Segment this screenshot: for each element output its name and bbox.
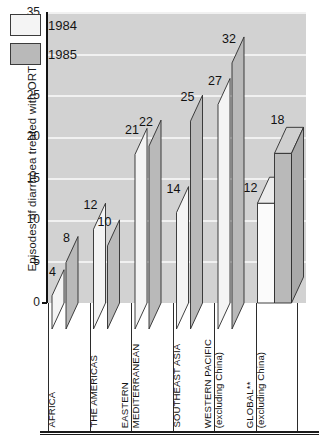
category-label-5: GLOBAL**(excluding China) xyxy=(244,352,265,428)
x-axis-line xyxy=(40,431,319,433)
category-label-line: EASTERN xyxy=(120,344,131,428)
y-tick-label-15: 15 xyxy=(12,173,40,183)
y-tick-label-0: 0 xyxy=(12,297,40,307)
category-label-line: MEDITERRANEAN xyxy=(130,344,141,428)
x-axis-line-shadow xyxy=(40,434,319,435)
y-tick-label-20: 20 xyxy=(12,131,40,141)
category-label-3: SOUTHEAST ASIA xyxy=(172,344,183,428)
category-label-line: AFRICA xyxy=(47,392,58,428)
legend-item-1985[interactable]: 1985 xyxy=(10,43,77,65)
y-tick-label-10: 10 xyxy=(12,214,40,224)
category-label-line: (excluding China) xyxy=(255,352,266,428)
legend-item-1984[interactable]: 1984 xyxy=(10,14,77,36)
y-tick-0 xyxy=(42,302,47,304)
category-label-4: WESTERN PACIFIC(excluding China) xyxy=(203,339,224,428)
y-tick-label-25: 25 xyxy=(12,90,40,100)
category-label-line: WESTERN PACIFIC xyxy=(203,339,214,428)
value-label-2-1985: 22 xyxy=(139,115,153,129)
category-separator-end xyxy=(297,303,298,432)
value-label-3-1985: 25 xyxy=(181,90,195,104)
category-label-2: EASTERNMEDITERRANEAN xyxy=(120,344,141,428)
value-label-4-1985: 32 xyxy=(222,32,236,46)
legend-swatch-1984 xyxy=(10,14,41,36)
legend: 1984 1985 xyxy=(10,14,77,72)
category-label-line: GLOBAL** xyxy=(244,352,255,428)
value-label-2-1984: 21 xyxy=(125,123,139,137)
category-label-line: THE AMERICAS xyxy=(89,355,100,428)
legend-label-1984: 1984 xyxy=(48,18,77,33)
value-label-1-1984: 12 xyxy=(84,198,98,212)
category-label-band: AFRICATHE AMERICASEASTERNMEDITERRANEANSO… xyxy=(48,303,306,432)
category-label-1: THE AMERICAS xyxy=(89,355,100,428)
value-label-5-1985: 18 xyxy=(271,113,285,127)
y-tick-label-5: 5 xyxy=(12,256,40,266)
value-label-3-1984: 14 xyxy=(167,182,181,196)
value-label-0-1985: 8 xyxy=(63,231,70,245)
value-label-0-1984: 4 xyxy=(49,265,56,279)
category-label-0: AFRICA xyxy=(47,392,58,428)
value-label-1-1985: 10 xyxy=(98,215,112,229)
legend-swatch-1985 xyxy=(10,43,41,65)
chart-figure: Episodes of diarrhoea treated with ORT (… xyxy=(0,0,319,442)
category-label-line: SOUTHEAST ASIA xyxy=(172,344,183,428)
legend-label-1985: 1985 xyxy=(48,47,77,62)
category-label-line: (excluding China) xyxy=(213,339,224,428)
value-label-4-1984: 27 xyxy=(208,74,222,88)
value-label-5-1984: 12 xyxy=(244,181,258,195)
